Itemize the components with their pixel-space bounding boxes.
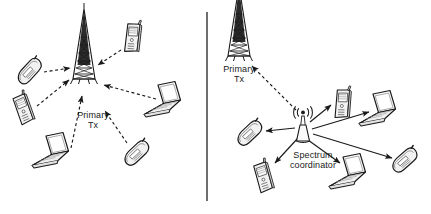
device-phone-coord-left bbox=[233, 118, 266, 147]
device-laptop-bottom-left bbox=[32, 133, 69, 169]
link-phone-left-lower-to-tower bbox=[37, 80, 69, 106]
device-phone-coord-upper bbox=[332, 84, 356, 121]
device-laptop-right bbox=[144, 82, 181, 118]
link-phone-top-right-to-tower bbox=[98, 50, 121, 65]
link-laptop-right-to-tower bbox=[104, 85, 156, 99]
device-laptop-coord-right bbox=[359, 91, 396, 127]
link-phone-left-upper-to-tower bbox=[44, 68, 70, 72]
device-phone-left-lower bbox=[12, 89, 36, 126]
device-phone-coord-bottom-left bbox=[253, 157, 275, 193]
label-spectrum-coordinator: Spectrum coordinator bbox=[276, 150, 350, 170]
label-primary-tx-left: Primary Tx bbox=[70, 110, 116, 130]
spectrum-coordinator-node bbox=[294, 107, 313, 143]
device-phone-coord-far-right bbox=[388, 146, 421, 174]
primary-tower-right bbox=[226, 0, 253, 61]
label-primary-tx-right: Primary Tx bbox=[216, 64, 262, 84]
left-panel-links bbox=[37, 50, 156, 148]
link-coordinator-to-phone-upper bbox=[310, 105, 331, 122]
device-phone-top-right bbox=[121, 18, 146, 55]
link-coordinator-to-phone-left bbox=[266, 128, 295, 131]
figure-canvas bbox=[0, 0, 431, 214]
primary-tower-left bbox=[71, 3, 98, 84]
device-phone-left-upper bbox=[13, 56, 46, 86]
device-phone-bottom-right bbox=[120, 138, 153, 167]
left-panel-devices bbox=[12, 18, 181, 168]
network-topology-figure: Primary Tx Primary Tx Spectrum coordinat… bbox=[0, 0, 431, 214]
